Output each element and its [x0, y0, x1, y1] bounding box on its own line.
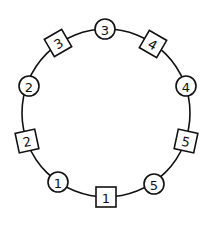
node-label: 2: [25, 80, 33, 95]
node-label: 4: [182, 80, 190, 95]
node-label: 3: [101, 23, 109, 38]
node-label: 1: [102, 191, 110, 206]
square-node-5: 5: [174, 129, 198, 153]
nodes-group: 3445511223: [15, 19, 198, 207]
ring-diagram: 3445511223: [0, 0, 211, 225]
circle-node-3: 3: [95, 19, 115, 39]
circle-node-1: 1: [48, 172, 68, 192]
node-label: 5: [150, 178, 158, 193]
circle-node-5: 5: [144, 174, 164, 194]
node-label: 1: [54, 176, 62, 191]
circle-node-4: 4: [176, 76, 196, 96]
square-node-4: 4: [139, 30, 166, 57]
circle-node-2: 2: [19, 76, 39, 96]
square-node-2: 2: [15, 129, 39, 153]
square-node-1: 1: [96, 187, 116, 207]
ring-circle: [22, 29, 190, 197]
